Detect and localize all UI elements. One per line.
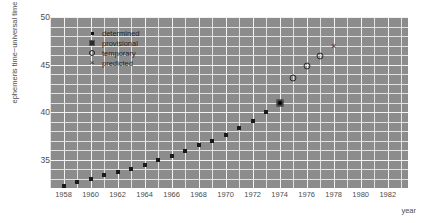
y-tick-label: 40 xyxy=(30,107,50,117)
x-tick-label: 1972 xyxy=(244,190,261,199)
y-tick-label: 35 xyxy=(30,155,50,165)
gridline-horizontal xyxy=(50,74,408,75)
data-point-determined xyxy=(116,170,120,174)
data-point-determined xyxy=(251,119,255,123)
data-point-determined xyxy=(210,139,214,143)
x-tick-label: 1980 xyxy=(352,190,369,199)
y-tick-label: 45 xyxy=(30,60,50,70)
data-point-determined xyxy=(237,126,241,130)
predicted-marker-icon: × xyxy=(86,58,98,68)
x-tick-label: 1982 xyxy=(379,190,396,199)
gridline-horizontal xyxy=(50,84,408,85)
data-point-determined xyxy=(62,184,66,188)
data-point-temporary xyxy=(317,52,324,59)
x-tick-label: 1958 xyxy=(55,190,72,199)
x-tick-label: 1974 xyxy=(271,190,288,199)
x-tick-label: 1978 xyxy=(325,190,342,199)
data-point-determined xyxy=(197,143,201,147)
data-point-determined xyxy=(156,158,160,162)
data-point-temporary xyxy=(290,74,297,81)
y-axis-title: ephemeris time−universal time xyxy=(10,0,19,113)
chart-legend: determined provisional temporary × predi… xyxy=(86,28,140,68)
temporary-marker-icon xyxy=(86,48,98,58)
legend-item-predicted: × predicted xyxy=(86,58,140,68)
data-point-predicted: × xyxy=(329,41,338,50)
data-point-determined xyxy=(143,163,147,167)
gridline-horizontal xyxy=(50,169,408,170)
legend-item-provisional: provisional xyxy=(86,38,140,48)
data-point-determined xyxy=(264,110,268,114)
data-point-determined xyxy=(89,177,93,181)
gridline-horizontal xyxy=(50,160,408,161)
data-point-determined xyxy=(75,180,79,184)
x-tick-label: 1962 xyxy=(109,190,126,199)
data-point-provisional xyxy=(276,99,283,106)
x-tick-label: 1966 xyxy=(163,190,180,199)
x-tick-label: 1976 xyxy=(298,190,315,199)
data-point-determined xyxy=(224,133,228,137)
gridline-horizontal xyxy=(50,103,408,104)
y-tick-label: 50 xyxy=(30,12,50,22)
legend-label: determined xyxy=(102,29,140,38)
data-point-temporary xyxy=(303,63,310,70)
x-tick-label: 1964 xyxy=(136,190,153,199)
determined-marker-icon xyxy=(86,28,98,38)
chart-figure: ephemeris time−universal time × 35404550… xyxy=(0,0,424,223)
legend-label: predicted xyxy=(102,59,133,68)
x-tick-label: 1970 xyxy=(217,190,234,199)
gridline-horizontal xyxy=(50,112,408,113)
legend-label: temporary xyxy=(102,49,136,58)
provisional-marker-icon xyxy=(86,38,98,48)
gridline-horizontal xyxy=(50,122,408,123)
legend-item-determined: determined xyxy=(86,28,140,38)
x-axis-title: year xyxy=(401,206,416,215)
legend-label: provisional xyxy=(102,39,138,48)
gridline-horizontal xyxy=(50,131,408,132)
x-tick-label: 1968 xyxy=(190,190,207,199)
gridline-horizontal xyxy=(50,150,408,151)
x-tick-label: 1960 xyxy=(82,190,99,199)
gridline-horizontal xyxy=(50,17,408,18)
data-point-determined xyxy=(129,167,133,171)
gridline-horizontal xyxy=(50,179,408,180)
data-point-determined xyxy=(183,149,187,153)
data-point-determined xyxy=(170,154,174,158)
data-point-determined xyxy=(102,173,106,177)
legend-item-temporary: temporary xyxy=(86,48,140,58)
gridline-horizontal xyxy=(50,141,408,142)
gridline-horizontal xyxy=(50,93,408,94)
